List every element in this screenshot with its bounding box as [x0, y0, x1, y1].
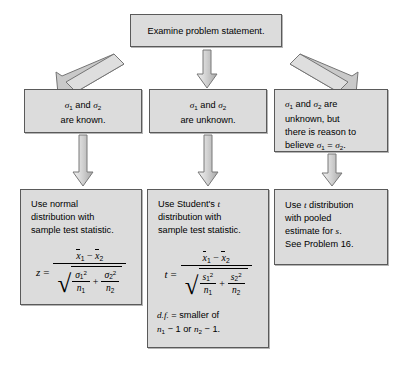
formula-z-denominator: √ σ12 n1 + σ22 n2	[53, 264, 126, 295]
formula-z-numerator: x1 − x2	[72, 250, 107, 263]
formula-z-lhs: z	[36, 266, 40, 278]
cond-mid-line-1: σ1 and σ2	[150, 99, 266, 114]
node-condition-sigmas-unknown: σ1 and σ2 are unknown.	[149, 89, 267, 133]
formula-t-statistic: t = x1 − x2 √ s12 n1	[148, 246, 268, 302]
cond-right-line-2: unknown, but	[285, 113, 380, 126]
result-left-line-3: sample test statistic.	[31, 224, 134, 237]
formula-t-equals: =	[171, 268, 177, 280]
flowchart-canvas: Examine problem statement.	[0, 0, 403, 371]
formula-z-equals: =	[43, 266, 49, 278]
node-result-student-t-distribution: Use Student's t distribution with sample…	[147, 189, 269, 348]
formula-t-denominator: √ s12 n1 + s22 n2	[181, 266, 252, 297]
arrow-mid-cond-to-result	[197, 135, 219, 188]
formula-t-fraction: x1 − x2 √ s12 n1 +	[181, 252, 252, 297]
result-mid-line-2: distribution with	[158, 211, 261, 224]
formula-t-numerator: x1 − x2	[199, 252, 234, 265]
node-result-normal-distribution: Use normal distribution with sample test…	[20, 189, 142, 305]
result-right-line-2: with pooled	[285, 212, 380, 225]
cond-left-line-1: σ1 and σ2	[25, 99, 141, 114]
node-examine-problem-statement: Examine problem statement.	[130, 14, 282, 47]
result-mid-line-1: Use Student's t	[158, 198, 261, 211]
degrees-of-freedom-note: d.f. = smaller of n1 − 1 or n2 − 1.	[157, 309, 262, 338]
node-start-line-1: Examine problem statement.	[131, 25, 281, 38]
result-left-line-1: Use normal	[31, 198, 134, 211]
result-left-line-2: distribution with	[31, 211, 134, 224]
df-line-1: d.f. = smaller of	[157, 309, 262, 323]
cond-right-line-1: σ1 and σ2 are	[285, 98, 380, 113]
result-mid-line-3: sample test statistic.	[158, 224, 261, 237]
formula-z-fraction: x1 − x2 √ σ12 n1 +	[53, 250, 126, 295]
node-result-pooled-t-distribution: Use t distribution with pooled estimate …	[274, 189, 388, 265]
df-line-2: n1 − 1 or n2 − 1.	[157, 323, 262, 338]
cond-right-line-4: believe σ1 = σ2.	[285, 139, 380, 154]
node-condition-sigmas-known: σ1 and σ2 are known.	[24, 89, 142, 133]
cond-left-line-2: are known.	[25, 114, 141, 127]
result-right-line-4: See Problem 16.	[285, 238, 380, 251]
formula-t-lhs: t	[164, 268, 167, 280]
arrow-right-cond-to-result	[321, 154, 343, 188]
node-condition-sigmas-unknown-equal: σ1 and σ2 are unknown, but there is reas…	[274, 89, 388, 152]
arrow-left-cond-to-result	[72, 135, 94, 188]
cond-right-line-3: there is reason to	[285, 126, 380, 139]
result-right-line-3: estimate for s.	[285, 225, 380, 238]
arrow-start-to-mid	[196, 50, 218, 90]
formula-z-statistic: z = x1 − x2 √ σ12 n1	[21, 244, 141, 300]
result-right-line-1: Use t distribution	[285, 199, 380, 212]
cond-mid-line-2: are unknown.	[150, 114, 266, 127]
